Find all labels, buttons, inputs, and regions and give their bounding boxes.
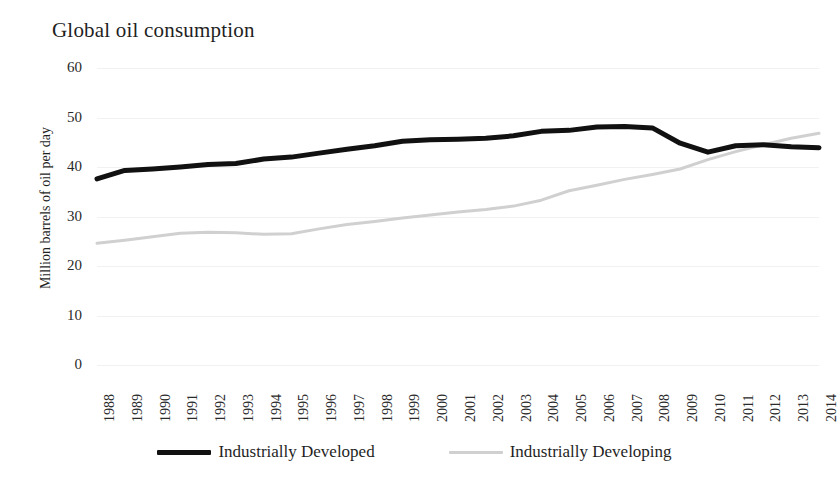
y-tick-label: 10: [48, 308, 82, 323]
x-tick-label: 2006: [603, 394, 617, 422]
x-tick-label: 2005: [575, 394, 589, 422]
series-lines: [97, 68, 819, 365]
y-axis-tick-labels: 0102030405060: [48, 0, 82, 479]
x-tick-label: 2010: [714, 394, 728, 422]
x-tick-label: 1992: [214, 394, 228, 422]
x-tick-label: 2009: [686, 394, 700, 422]
x-tick-label: 1998: [381, 394, 395, 422]
x-tick-label: 2013: [797, 394, 811, 422]
x-tick-label: 1994: [270, 394, 284, 422]
x-tick-label: 1988: [103, 394, 117, 422]
x-tick-label: 2014: [825, 394, 839, 422]
x-tick-label: 1995: [297, 394, 311, 422]
x-tick-label: 2002: [492, 394, 506, 422]
gridline: [97, 365, 819, 366]
x-tick-label: 2000: [436, 394, 450, 422]
x-tick-label: 2008: [658, 394, 672, 422]
x-axis-tick-labels: 1988198919901991199219931994199519961997…: [97, 370, 819, 428]
y-tick-label: 40: [48, 159, 82, 174]
legend-label-developing: Industrially Developing: [510, 442, 672, 462]
legend-line-swatch-developed: [157, 450, 211, 455]
y-tick-label: 50: [48, 110, 82, 125]
x-tick-label: 1989: [131, 394, 145, 422]
y-tick-label: 20: [48, 258, 82, 273]
x-tick-label: 2003: [520, 394, 534, 422]
plot-area: [97, 68, 819, 365]
x-tick-label: 1990: [159, 394, 173, 422]
legend-entry-developing: Industrially Developing: [449, 442, 672, 462]
legend-line-swatch-developing: [449, 451, 503, 454]
y-tick-label: 60: [48, 60, 82, 75]
x-tick-label: 1997: [353, 394, 367, 422]
x-tick-label: 2007: [631, 394, 645, 422]
y-tick-label: 30: [48, 209, 82, 224]
chart-title: Global oil consumption: [52, 18, 255, 43]
chart-legend: Industrially Developed Industrially Deve…: [0, 442, 829, 462]
x-tick-label: 2004: [547, 394, 561, 422]
legend-entry-developed: Industrially Developed: [157, 442, 374, 462]
series-line: [97, 126, 819, 178]
x-tick-label: 2012: [769, 394, 783, 422]
x-tick-label: 1999: [408, 394, 422, 422]
legend-label-developed: Industrially Developed: [218, 442, 374, 462]
y-tick-label: 0: [48, 357, 82, 372]
x-tick-label: 2001: [464, 394, 478, 422]
x-tick-label: 1996: [325, 394, 339, 422]
x-tick-label: 1991: [186, 394, 200, 422]
x-tick-label: 2011: [742, 395, 756, 422]
x-tick-label: 1993: [242, 394, 256, 422]
